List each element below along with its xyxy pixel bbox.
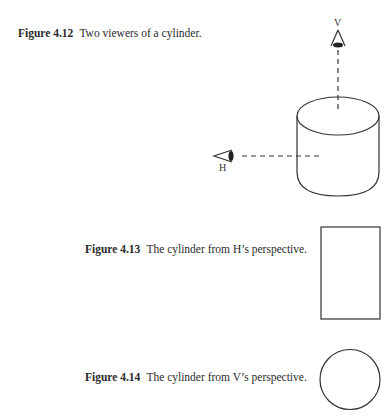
viewer-h-eye-icon: [214, 150, 234, 162]
viewer-v-eye-icon: [331, 30, 345, 48]
viewer-h-label: H: [219, 162, 226, 173]
figure-artwork: V H: [0, 0, 392, 419]
figure-4-13-rectangle: [321, 227, 380, 319]
cylinder: [297, 97, 379, 196]
viewer-v-label: V: [334, 17, 342, 28]
figure-4-12-diagram: V H: [214, 17, 379, 196]
figure-4-14-circle: [320, 350, 380, 410]
